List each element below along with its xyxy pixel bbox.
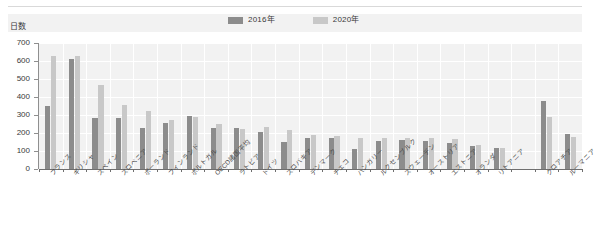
x-axis-tick bbox=[275, 169, 276, 172]
x-axis-tick bbox=[181, 169, 182, 172]
y-axis-tick-label: 600 bbox=[17, 57, 30, 65]
y-axis-tick-label: 300 bbox=[17, 111, 30, 119]
bar-group bbox=[63, 43, 87, 169]
y-axis-tick-label: 100 bbox=[17, 147, 30, 155]
y-axis-tick-label: 0 bbox=[26, 165, 30, 173]
bar-2016[interactable] bbox=[116, 118, 121, 169]
bar-2016[interactable] bbox=[45, 106, 50, 169]
x-axis-tick bbox=[110, 169, 111, 172]
y-axis-tick-label: 500 bbox=[17, 75, 30, 83]
x-axis-tick bbox=[157, 169, 158, 172]
legend-swatch-2020 bbox=[313, 17, 328, 24]
bar-2020[interactable] bbox=[122, 105, 127, 169]
x-axis-tick bbox=[63, 169, 64, 172]
y-axis-tick bbox=[34, 115, 38, 116]
legend-item-2016[interactable]: 2016年 bbox=[228, 16, 275, 24]
x-axis-tick bbox=[228, 169, 229, 172]
chart-legend: 2016年 2020年 bbox=[228, 16, 360, 24]
y-axis-tick bbox=[34, 79, 38, 80]
x-axis-tick bbox=[488, 169, 489, 172]
x-axis-tick bbox=[393, 169, 394, 172]
x-axis-tick bbox=[204, 169, 205, 172]
bar-2020[interactable] bbox=[75, 56, 80, 169]
y-axis-title: 日数 bbox=[10, 20, 26, 31]
bar-2016[interactable] bbox=[187, 116, 192, 169]
bar-2020[interactable] bbox=[169, 120, 174, 170]
y-axis-tick bbox=[34, 97, 38, 98]
bar-group bbox=[86, 43, 110, 169]
bar-2016[interactable] bbox=[541, 101, 546, 169]
y-axis-labels: 7006005004003002001000 bbox=[0, 43, 33, 169]
y-axis-tick bbox=[34, 169, 38, 170]
bar-2016[interactable] bbox=[281, 142, 286, 169]
x-axis-tick bbox=[417, 169, 418, 172]
x-axis-tick bbox=[346, 169, 347, 172]
x-axis-tick bbox=[582, 169, 583, 172]
x-axis-labels: フランスギリシャスペインスロベニアポーランドフィンランドポルトガルOECD諸国平… bbox=[39, 172, 582, 229]
bar-group bbox=[275, 43, 299, 169]
legend-label-2016: 2016年 bbox=[248, 16, 275, 24]
x-axis-tick bbox=[558, 169, 559, 172]
bar-2020[interactable] bbox=[547, 117, 552, 169]
bar-group bbox=[251, 43, 275, 169]
legend-item-2020[interactable]: 2020年 bbox=[313, 16, 360, 24]
x-axis-tick bbox=[464, 169, 465, 172]
bar-group bbox=[535, 43, 559, 169]
bar-2020[interactable] bbox=[98, 85, 103, 169]
bar-2020[interactable] bbox=[146, 111, 151, 169]
y-axis-tick bbox=[34, 61, 38, 62]
bar-group bbox=[110, 43, 134, 169]
legend-swatch-2016 bbox=[228, 17, 243, 24]
y-axis-tick bbox=[34, 151, 38, 152]
x-axis-tick bbox=[511, 169, 512, 172]
x-axis-tick bbox=[370, 169, 371, 172]
y-axis-tick bbox=[34, 43, 38, 44]
bar-2016[interactable] bbox=[258, 132, 263, 169]
bar-2016[interactable] bbox=[92, 118, 97, 169]
bar-2020[interactable] bbox=[51, 56, 56, 169]
bar-group bbox=[39, 43, 63, 169]
legend-label-2020: 2020年 bbox=[333, 16, 360, 24]
y-axis-tick-label: 200 bbox=[17, 129, 30, 137]
x-axis-tick bbox=[86, 169, 87, 172]
bar-group bbox=[488, 43, 512, 169]
x-axis-tick bbox=[299, 169, 300, 172]
y-axis-tick-label: 700 bbox=[17, 39, 30, 47]
x-axis-tick bbox=[440, 169, 441, 172]
y-axis-tick-label: 400 bbox=[17, 93, 30, 101]
y-axis-tick bbox=[34, 133, 38, 134]
bar-2016[interactable] bbox=[352, 149, 357, 169]
x-axis-tick bbox=[251, 169, 252, 172]
x-axis-tick bbox=[535, 169, 536, 172]
bar-group bbox=[346, 43, 370, 169]
x-axis-tick bbox=[322, 169, 323, 172]
x-axis-tick bbox=[39, 169, 40, 172]
top-divider bbox=[8, 6, 582, 7]
x-axis-tick bbox=[133, 169, 134, 172]
